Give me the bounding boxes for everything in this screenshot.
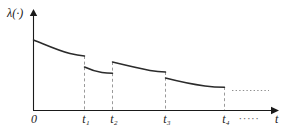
y-axis-label: λ(·) [7,7,23,19]
event-dashed-lines [85,56,225,110]
x-axis-label: t [275,113,278,125]
x-axis-ellipsis: ····· [239,113,260,124]
figure-container: λ(·) t 0 t₁ t₂ t₃ t₄ ····· [0,0,293,132]
curve-segment-2 [85,67,113,73]
tick-label-0: 0 [31,113,37,125]
tick-label-t2: t₂ [110,113,118,125]
y-axis [30,9,37,111]
y-axis-arrowhead [30,9,37,16]
intensity-curve [34,40,225,87]
tick-label-t3: t₃ [163,113,171,125]
curve-segment-4 [166,78,225,87]
tick-label-t4: t₄ [222,113,230,125]
curve-segment-1 [34,40,85,56]
tick-label-t1: t₁ [82,113,90,125]
curve-segment-3 [113,62,166,72]
